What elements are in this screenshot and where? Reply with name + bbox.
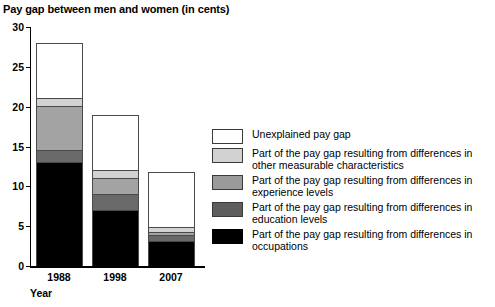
bar-segment-occupations[interactable]: [37, 163, 82, 266]
legend-item-unexplained[interactable]: Unexplained pay gap: [212, 128, 494, 144]
legend-swatch-other: [212, 148, 243, 163]
stacked-bar-chart: Pay gap between men and women (in cents)…: [0, 0, 495, 307]
bar-segment-education[interactable]: [93, 195, 138, 211]
y-tick-label: 0: [0, 261, 24, 272]
legend-label: Unexplained pay gap: [252, 128, 351, 140]
legend-label: Part of the pay gap resulting from diffe…: [252, 147, 492, 171]
bar-segment-unexplained[interactable]: [149, 173, 194, 228]
bar-segment-experience[interactable]: [37, 107, 82, 151]
legend-swatch-unexplained: [212, 129, 243, 144]
legend-label: Part of the pay gap resulting from diffe…: [252, 201, 492, 225]
y-tick-label: 20: [0, 101, 24, 112]
legend-label: Part of the pay gap resulting from diffe…: [252, 174, 492, 198]
x-tick-label: 1998: [85, 272, 145, 283]
bar-segment-other[interactable]: [37, 99, 82, 107]
y-tick-mark: [26, 27, 30, 28]
y-tick-mark: [26, 186, 30, 187]
y-tick-label: 25: [0, 62, 24, 73]
legend-swatch-education: [212, 202, 243, 217]
chart-title: Pay gap between men and women (in cents): [3, 3, 229, 15]
y-tick-mark: [26, 226, 30, 227]
legend-item-occupations[interactable]: Part of the pay gap resulting from diffe…: [212, 228, 494, 252]
bar-segment-unexplained[interactable]: [93, 116, 138, 171]
y-axis-line: [30, 27, 31, 268]
x-tick-label: 2007: [141, 272, 201, 283]
bar-segment-occupations[interactable]: [149, 242, 194, 266]
y-tick-label: 5: [0, 221, 24, 232]
y-tick-label: 10: [0, 181, 24, 192]
legend-item-education[interactable]: Part of the pay gap resulting from diffe…: [212, 201, 494, 225]
legend-swatch-experience: [212, 175, 243, 190]
bar-segment-other[interactable]: [93, 171, 138, 179]
y-tick-mark: [26, 266, 30, 267]
bar-1998[interactable]: [92, 115, 139, 266]
bar-segment-education[interactable]: [37, 151, 82, 163]
bar-segment-occupations[interactable]: [93, 211, 138, 266]
plot-area: 051015202530 198819982007: [30, 27, 205, 268]
bar-segment-unexplained[interactable]: [37, 44, 82, 100]
x-tick-label: 1988: [29, 272, 89, 283]
legend-item-other[interactable]: Part of the pay gap resulting from diffe…: [212, 147, 494, 171]
y-tick-mark: [26, 107, 30, 108]
legend-label: Part of the pay gap resulting from diffe…: [252, 228, 492, 252]
legend-swatch-occupations: [212, 229, 243, 244]
bar-1988[interactable]: [36, 43, 83, 266]
x-axis-title: Year: [30, 288, 52, 299]
y-tick-label: 15: [0, 141, 24, 152]
bar-segment-experience[interactable]: [93, 179, 138, 195]
chart-legend: Unexplained pay gapPart of the pay gap r…: [212, 128, 494, 255]
x-axis-line: [30, 266, 205, 268]
y-tick-label: 30: [0, 22, 24, 33]
bar-2007[interactable]: [148, 172, 195, 266]
y-tick-mark: [26, 147, 30, 148]
legend-item-experience[interactable]: Part of the pay gap resulting from diffe…: [212, 174, 494, 198]
y-tick-mark: [26, 67, 30, 68]
